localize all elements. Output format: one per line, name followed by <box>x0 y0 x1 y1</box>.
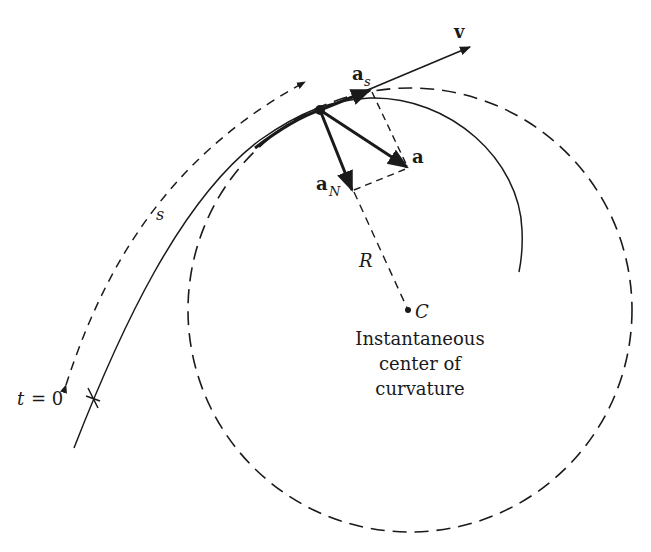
center-caption-line1: Instantaneous <box>355 328 484 349</box>
normal-accel-sub: N <box>328 184 341 199</box>
tangential-accel-sub: s <box>364 74 371 89</box>
center-caption-line2: center of <box>379 353 462 374</box>
particle-point <box>315 105 325 115</box>
center-point <box>405 307 411 313</box>
center-label: C <box>415 301 429 322</box>
arc-length-label: s <box>156 205 164 224</box>
component-dash-2 <box>354 168 408 190</box>
curvature-diagram: v a s a a N R C s t = 0 Instantaneous ce… <box>0 0 651 552</box>
velocity-label: v <box>453 21 465 42</box>
tangential-accel-label: a <box>352 63 364 84</box>
radius-label: R <box>358 250 373 271</box>
t-label: t <box>17 388 25 409</box>
normal-accel-label: a <box>316 173 328 194</box>
t-equals-label: = 0 <box>31 388 63 409</box>
tangential-accel-vector <box>320 90 370 110</box>
path-highlight <box>255 110 320 148</box>
accel-label: a <box>412 146 424 167</box>
arc-length-arrow <box>66 82 305 385</box>
center-caption-line3: curvature <box>375 378 464 399</box>
